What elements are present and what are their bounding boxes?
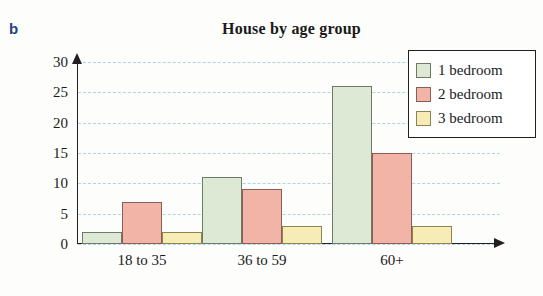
bar: [82, 232, 122, 244]
bar: [372, 153, 412, 244]
bar: [332, 86, 372, 244]
chart-title: House by age group: [0, 20, 543, 38]
x-axis-category-label: 36 to 59: [237, 252, 286, 269]
legend-swatch-icon: [416, 63, 431, 78]
legend-item: 2 bedroom: [416, 82, 527, 106]
y-axis-tick-label: 15: [22, 145, 68, 162]
y-axis-tick-label: 0: [22, 236, 68, 253]
legend-swatch-icon: [416, 111, 431, 126]
bar: [412, 226, 452, 244]
legend-swatch-icon: [416, 87, 431, 102]
legend-label: 3 bedroom: [438, 110, 503, 127]
y-axis-tick-labels: 051015202530: [22, 0, 68, 296]
bar: [242, 189, 282, 244]
y-axis-tick-label: 10: [22, 175, 68, 192]
x-axis-category-label: 18 to 35: [117, 252, 166, 269]
bar: [122, 202, 162, 244]
y-axis-tick-label: 20: [22, 114, 68, 131]
legend-label: 2 bedroom: [438, 86, 503, 103]
legend-item: 3 bedroom: [416, 106, 527, 130]
bar: [282, 226, 322, 244]
bar: [202, 177, 242, 244]
gridline: [78, 244, 500, 245]
legend-label: 1 bedroom: [438, 62, 503, 79]
y-axis-tick-label: 25: [22, 84, 68, 101]
bar: [162, 232, 202, 244]
legend-item: 1 bedroom: [416, 58, 527, 82]
y-axis-tick-label: 5: [22, 205, 68, 222]
y-axis-tick-label: 30: [22, 54, 68, 71]
x-axis-category-label: 60+: [380, 252, 403, 269]
chart-legend: 1 bedroom2 bedroom3 bedroom: [408, 50, 536, 138]
